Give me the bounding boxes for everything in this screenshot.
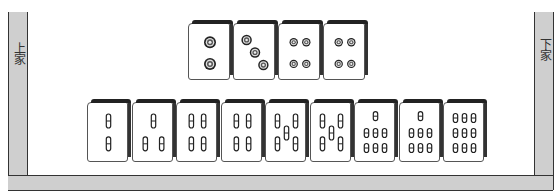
dots-4-tile (323, 23, 365, 80)
bamboo-sticks-icon (444, 103, 485, 163)
bamboo-2-tile[interactable] (87, 102, 128, 162)
player-area-border (8, 175, 553, 191)
circle-pips-icon (189, 24, 231, 81)
bamboo-3-tile[interactable] (132, 102, 173, 162)
bamboo-sticks-icon (177, 103, 218, 163)
bamboo-sticks-icon (222, 103, 263, 163)
bamboo-9-tile[interactable] (443, 102, 484, 162)
circle-pips-icon (279, 24, 321, 81)
bamboo-4-tile[interactable] (176, 102, 217, 162)
bamboo-sticks-icon (311, 103, 352, 163)
bamboo-sticks-icon (88, 103, 129, 163)
bamboo-5-tile[interactable] (265, 102, 306, 162)
bamboo-5-tile[interactable] (310, 102, 351, 162)
bamboo-sticks-icon (355, 103, 396, 163)
left-seat-label: 上家 (11, 42, 25, 64)
bamboo-7-tile[interactable] (399, 102, 440, 162)
dots-4-tile (278, 23, 320, 80)
right-seat-label: 下家 (537, 38, 551, 60)
dots-3-tile (233, 23, 275, 80)
bamboo-sticks-icon (266, 103, 307, 163)
bamboo-4-tile[interactable] (221, 102, 262, 162)
bamboo-7-tile[interactable] (354, 102, 395, 162)
bamboo-sticks-icon (133, 103, 174, 163)
left-opponent-area (8, 12, 28, 190)
circle-pips-icon (324, 24, 366, 81)
bamboo-sticks-icon (400, 103, 441, 163)
dots-2-tile (188, 23, 230, 80)
circle-pips-icon (234, 24, 276, 81)
